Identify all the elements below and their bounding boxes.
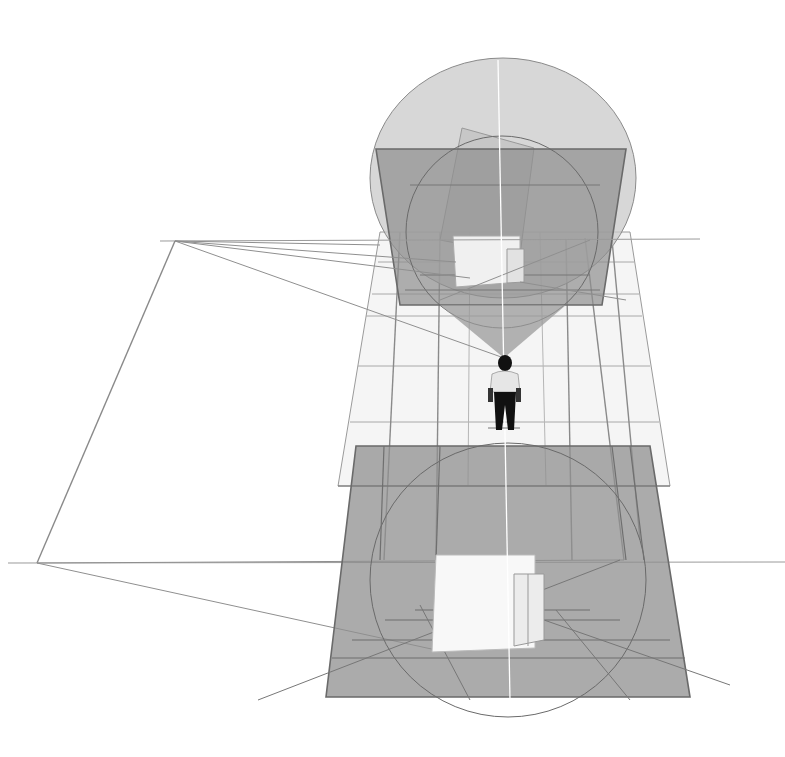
upper-box-small [507, 249, 524, 283]
lower-box-small [514, 574, 544, 646]
perspective-diagram [0, 0, 785, 757]
left-frame-edge [37, 241, 175, 563]
